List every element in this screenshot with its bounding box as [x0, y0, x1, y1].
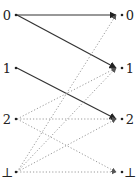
left-node-2: 2	[3, 112, 17, 127]
node-dot-icon	[15, 14, 18, 17]
left-node-label: 0	[3, 8, 11, 23]
right-node-1: 1	[121, 61, 134, 76]
left-node-bot: ⊥	[1, 165, 17, 180]
right-node-label: 1	[126, 61, 134, 76]
left-node-label: 1	[3, 61, 11, 76]
right-node-column: 012⊥	[121, 8, 136, 180]
edge-bot-to-1	[17, 68, 116, 172]
edge-0-to-1	[17, 15, 116, 68]
edge-bot-to-0	[17, 15, 116, 172]
node-dot-icon	[15, 171, 18, 174]
node-dot-icon	[121, 14, 124, 17]
right-node-label: 0	[126, 8, 134, 23]
mapping-diagram: 012⊥ 012⊥	[0, 0, 140, 187]
node-dot-icon	[121, 118, 124, 121]
right-node-label: ⊥	[124, 165, 136, 180]
left-node-column: 012⊥	[1, 8, 17, 180]
node-dot-icon	[121, 67, 124, 70]
left-node-label: 2	[3, 112, 11, 127]
left-node-1: 1	[3, 61, 17, 76]
edge-group	[17, 15, 116, 172]
right-node-bot: ⊥	[121, 165, 136, 180]
node-dot-icon	[15, 118, 18, 121]
left-node-label: ⊥	[1, 165, 13, 180]
right-node-0: 0	[121, 8, 134, 23]
right-node-2: 2	[121, 112, 134, 127]
left-node-0: 0	[3, 8, 17, 23]
node-dot-icon	[121, 171, 124, 174]
node-dot-icon	[15, 67, 18, 70]
right-node-label: 2	[126, 112, 134, 127]
